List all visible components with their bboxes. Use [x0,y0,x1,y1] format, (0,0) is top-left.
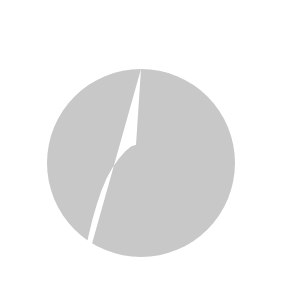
graph-figure [0,0,299,308]
solution-region [30,50,252,290]
